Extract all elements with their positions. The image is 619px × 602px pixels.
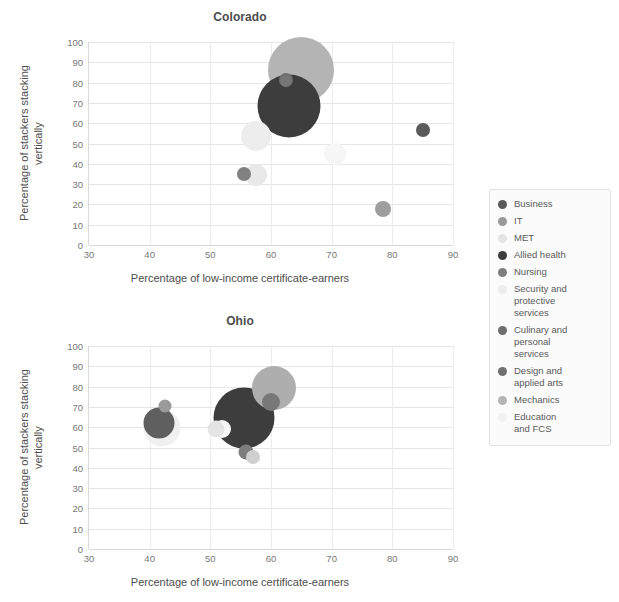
legend-item[interactable]: Business xyxy=(498,198,604,210)
y-axis-tick-label: 70 xyxy=(72,401,83,412)
x-axis-line xyxy=(89,245,453,246)
gridline-vertical xyxy=(392,346,393,549)
y-axis-tick-label: 90 xyxy=(72,361,83,372)
legend-swatch-icon xyxy=(498,413,507,422)
legend-swatch-icon xyxy=(498,268,507,277)
x-axis-tick-label: 90 xyxy=(448,553,459,564)
figure-root: Colorado Percentage of stackers stacking… xyxy=(0,0,619,602)
legend: BusinessITMETAllied healthNursingSecurit… xyxy=(489,189,611,446)
bubble-marker xyxy=(237,167,251,181)
legend-swatch-icon xyxy=(498,200,507,209)
chart-panel-ohio: Ohio Percentage of stackers stacking ver… xyxy=(0,306,480,602)
legend-item-label: Education and FCS xyxy=(514,411,556,435)
legend-item[interactable]: Design and applied arts xyxy=(498,365,604,389)
legend-item-label: Security and protective services xyxy=(514,283,567,319)
x-axis-tick-label: 50 xyxy=(205,249,216,260)
legend-swatch-icon xyxy=(498,285,507,294)
bubble-marker xyxy=(143,408,174,439)
gridline-vertical xyxy=(210,42,211,245)
gridline-vertical xyxy=(453,42,454,245)
legend-item[interactable]: MET xyxy=(498,232,604,244)
legend-swatch-icon xyxy=(498,234,507,243)
legend-item-label: Culinary and personal services xyxy=(514,324,567,360)
y-axis-tick-label: 100 xyxy=(67,341,83,352)
y-axis-tick-label: 90 xyxy=(72,57,83,68)
bubble-marker xyxy=(262,393,280,411)
y-axis-tick-label: 60 xyxy=(72,422,83,433)
legend-item[interactable]: Nursing xyxy=(498,266,604,278)
y-axis-tick-label: 40 xyxy=(72,158,83,169)
legend-item[interactable]: Security and protective services xyxy=(498,283,604,319)
y-axis-tick-label: 60 xyxy=(72,118,83,129)
legend-swatch-icon xyxy=(498,326,507,335)
legend-item[interactable]: Mechanics xyxy=(498,394,604,406)
bubble-marker xyxy=(375,201,391,217)
gridline-vertical xyxy=(453,346,454,549)
bubble-marker xyxy=(158,399,171,412)
plot-area-colorado: 010203040506070809010030405060708090 xyxy=(88,42,453,245)
y-axis-tick-label: 80 xyxy=(72,381,83,392)
chart-panel-colorado: Colorado Percentage of stackers stacking… xyxy=(0,0,480,300)
x-axis-tick-label: 30 xyxy=(84,249,95,260)
x-axis-tick-label: 50 xyxy=(205,553,216,564)
legend-item-label: Mechanics xyxy=(514,394,559,406)
legend-item[interactable]: Culinary and personal services xyxy=(498,324,604,360)
bubble-marker xyxy=(241,121,271,151)
y-axis-tick-label: 30 xyxy=(72,483,83,494)
x-axis-tick-label: 40 xyxy=(144,553,155,564)
gridline-vertical xyxy=(150,346,151,549)
y-axis-tick-label: 40 xyxy=(72,462,83,473)
x-axis-tick-label: 70 xyxy=(326,553,337,564)
chart-title-colorado: Colorado xyxy=(0,10,480,24)
chart-title-ohio: Ohio xyxy=(0,314,480,328)
y-axis-label-colorado: Percentage of stackers stacking vertical… xyxy=(18,42,46,245)
legend-swatch-icon xyxy=(498,217,507,226)
x-axis-tick-label: 30 xyxy=(84,553,95,564)
x-axis-tick-label: 60 xyxy=(266,553,277,564)
legend-item-label: Allied health xyxy=(514,249,566,261)
bubble-marker xyxy=(246,450,260,464)
y-axis-tick-label: 0 xyxy=(78,544,83,555)
x-axis-tick-label: 90 xyxy=(448,249,459,260)
y-axis-label-ohio: Percentage of stackers stacking vertical… xyxy=(18,346,46,549)
legend-swatch-icon xyxy=(498,396,507,405)
y-axis-tick-label: 20 xyxy=(72,503,83,514)
y-axis-tick-label: 30 xyxy=(72,179,83,190)
gridline-vertical xyxy=(150,42,151,245)
y-axis-tick-label: 50 xyxy=(72,442,83,453)
bubble-marker xyxy=(208,421,225,438)
y-axis-tick-label: 0 xyxy=(78,240,83,251)
y-axis-tick-label: 70 xyxy=(72,97,83,108)
plot-area-ohio: 010203040506070809010030405060708090 xyxy=(88,346,453,549)
gridline-vertical xyxy=(210,346,211,549)
bubble-marker xyxy=(281,75,292,86)
y-axis-tick-label: 50 xyxy=(72,138,83,149)
x-axis-tick-label: 80 xyxy=(387,249,398,260)
x-axis-tick-label: 60 xyxy=(266,249,277,260)
bubble-marker xyxy=(324,143,346,165)
y-axis-tick-label: 80 xyxy=(72,77,83,88)
y-axis-tick-label: 10 xyxy=(72,523,83,534)
x-axis-tick-label: 40 xyxy=(144,249,155,260)
x-axis-tick-label: 70 xyxy=(326,249,337,260)
x-axis-tick-label: 80 xyxy=(387,553,398,564)
legend-swatch-icon xyxy=(498,251,507,260)
legend-item[interactable]: Education and FCS xyxy=(498,411,604,435)
y-axis-tick-label: 10 xyxy=(72,219,83,230)
y-axis-tick-label: 20 xyxy=(72,199,83,210)
legend-item-label: MET xyxy=(514,232,534,244)
gridline-vertical xyxy=(332,346,333,549)
legend-item-label: Nursing xyxy=(514,266,547,278)
x-axis-label-colorado: Percentage of low-income certificate-ear… xyxy=(0,272,480,284)
x-axis-label-ohio: Percentage of low-income certificate-ear… xyxy=(0,576,480,588)
bubble-marker xyxy=(416,123,430,137)
gridline-vertical xyxy=(392,42,393,245)
legend-item-label: IT xyxy=(514,215,522,227)
legend-item-label: Business xyxy=(514,198,553,210)
legend-swatch-icon xyxy=(498,367,507,376)
legend-item[interactable]: Allied health xyxy=(498,249,604,261)
legend-item-label: Design and applied arts xyxy=(514,365,563,389)
legend-item[interactable]: IT xyxy=(498,215,604,227)
x-axis-line xyxy=(89,549,453,550)
y-axis-tick-label: 100 xyxy=(67,37,83,48)
